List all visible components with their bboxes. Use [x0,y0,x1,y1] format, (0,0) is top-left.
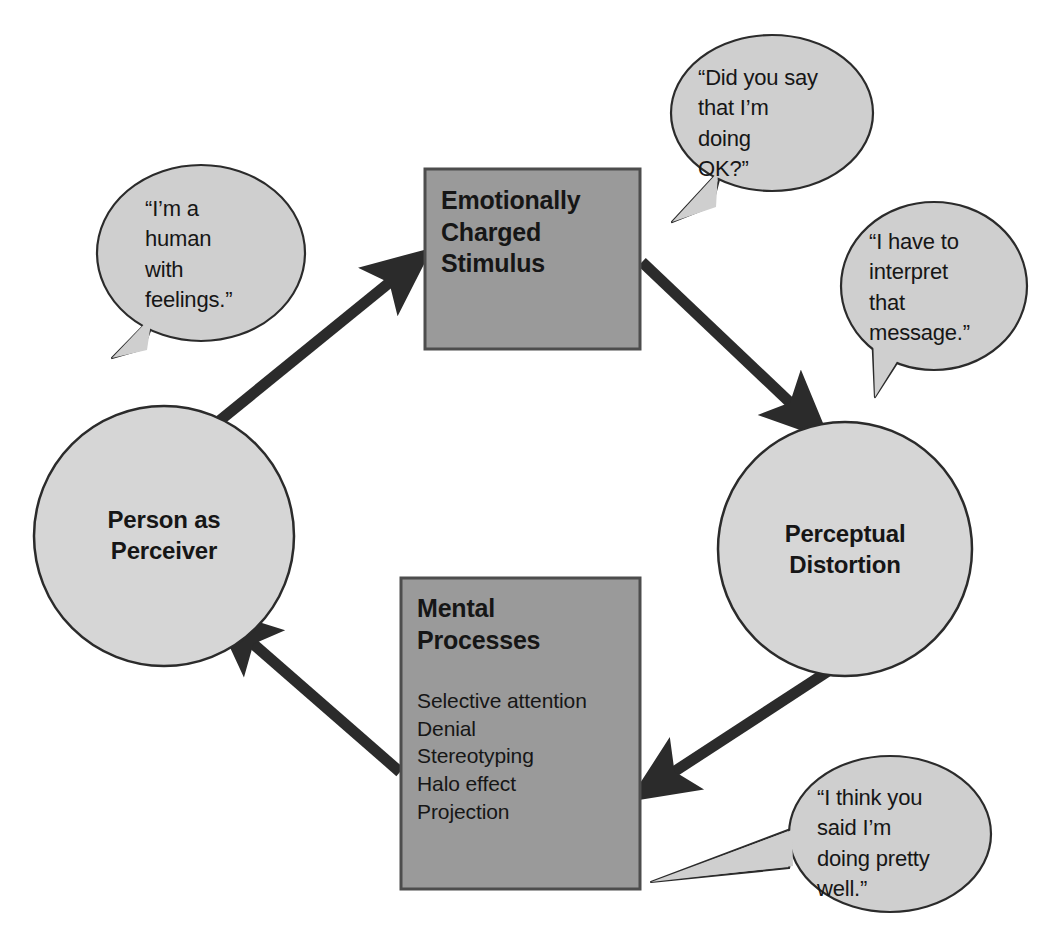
bubble-interpret-message[interactable] [841,202,1027,397]
bubble-human-feelings[interactable] [97,165,305,358]
arrow-mental-to-person [243,635,400,772]
bubble-doing-pretty-well[interactable] [651,756,991,912]
node-mental-processes[interactable] [401,578,640,889]
diagram-vector-layer [0,0,1061,941]
diagram-canvas: EmotionallyChargedStimulus MentalProcess… [0,0,1061,941]
bubble-did-you-say[interactable] [671,35,873,222]
node-person-as-perceiver[interactable] [34,406,294,666]
node-emotionally-charged-stimulus[interactable] [425,169,640,349]
arrow-perceptual-to-mental [663,670,830,779]
node-perceptual-distortion[interactable] [718,422,972,676]
arrow-stimulus-to-perceptual [642,262,800,412]
